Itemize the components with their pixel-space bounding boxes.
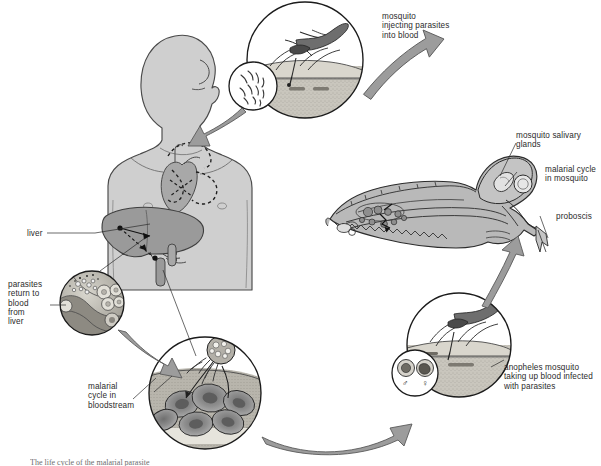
inset-bloodstream: [147, 336, 261, 449]
label-anopheles-taking-blood: anopheles mosquito taking up blood infec…: [504, 363, 593, 391]
malaria-life-cycle-figure: ♂ ♀: [0, 0, 601, 466]
label-malarial-cycle-bloodstream: malarial cycle in bloodstream: [88, 382, 134, 410]
male-gametocyte-symbol: ♂: [402, 378, 408, 388]
figure-caption: The life cycle of the malarial parasite: [30, 458, 150, 466]
female-gametocyte-symbol: ♀: [422, 378, 428, 388]
inset-mosquito-injecting: [229, 2, 367, 118]
label-liver: liver: [27, 229, 43, 238]
label-malarial-cycle-mosquito: malarial cycle in mosquito: [545, 165, 596, 184]
label-salivary-glands: mosquito salivary glands: [516, 131, 581, 150]
mosquito-anatomy: [326, 156, 548, 252]
label-parasites-return: parasites return to blood from liver: [8, 280, 42, 326]
label-mosquito-injecting: mosquito injecting parasites into blood: [382, 12, 449, 40]
label-proboscis: proboscis: [556, 212, 592, 221]
inset-mosquito-uptake: ♂ ♀: [392, 293, 511, 397]
